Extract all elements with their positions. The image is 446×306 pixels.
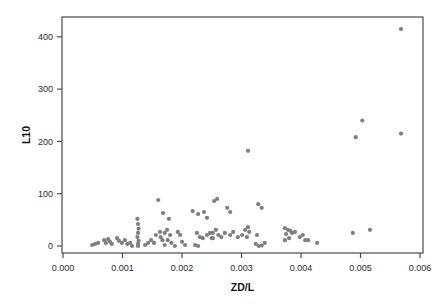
- y-tick-label: 400: [38, 32, 53, 42]
- data-point: [260, 206, 264, 210]
- data-point: [287, 236, 291, 240]
- x-tick-label: 0.005: [349, 263, 372, 273]
- x-tick-label: 0.006: [409, 263, 432, 273]
- data-point: [354, 135, 358, 139]
- y-tick-label: 200: [38, 137, 53, 147]
- data-point: [195, 231, 199, 235]
- data-point: [306, 238, 310, 242]
- plot-frame: [62, 17, 423, 253]
- data-point: [165, 228, 169, 232]
- data-point: [225, 206, 229, 210]
- data-point: [293, 230, 297, 234]
- data-point: [183, 243, 187, 247]
- data-point: [205, 216, 209, 220]
- data-point: [161, 211, 165, 215]
- data-point: [173, 244, 177, 248]
- data-point: [130, 244, 134, 248]
- x-tick-label: 0.004: [290, 263, 313, 273]
- data-point: [214, 228, 218, 232]
- data-point: [283, 238, 287, 242]
- y-tick-label: 100: [38, 189, 53, 199]
- data-point: [360, 118, 364, 122]
- x-tick-label: 0.001: [111, 263, 134, 273]
- scatter-chart-figure: 01002003004000.0000.0010.0020.0030.0040.…: [0, 0, 446, 306]
- data-point: [255, 233, 259, 237]
- data-point: [137, 227, 141, 231]
- data-point: [202, 210, 206, 214]
- data-point: [166, 238, 170, 242]
- data-point: [399, 27, 403, 31]
- data-point: [284, 232, 288, 236]
- data-point: [196, 212, 200, 216]
- data-point: [178, 233, 182, 237]
- data-point: [136, 231, 140, 235]
- data-point: [201, 236, 205, 240]
- data-point: [123, 238, 127, 242]
- data-point: [219, 235, 223, 239]
- x-tick-label: 0.002: [171, 263, 194, 273]
- data-point: [104, 241, 108, 245]
- x-axis-title: ZD/L: [62, 281, 423, 293]
- data-point: [228, 233, 232, 237]
- data-point: [399, 132, 403, 136]
- data-point: [215, 197, 219, 201]
- data-point: [315, 241, 319, 245]
- data-point: [135, 235, 139, 239]
- data-point: [191, 209, 195, 213]
- data-point: [256, 202, 260, 206]
- data-point: [368, 228, 372, 232]
- data-point: [211, 236, 215, 240]
- data-point: [154, 233, 158, 237]
- y-axis-title: L10: [20, 95, 32, 175]
- data-point: [160, 238, 164, 242]
- data-point: [168, 233, 172, 237]
- data-point: [263, 241, 267, 245]
- data-point: [236, 235, 240, 239]
- y-tick-label: 0: [48, 241, 53, 251]
- data-point: [240, 233, 244, 237]
- data-point: [169, 241, 173, 245]
- data-point: [163, 243, 167, 247]
- data-point: [196, 244, 200, 248]
- data-point: [158, 230, 162, 234]
- data-point: [110, 242, 114, 246]
- x-tick-label: 0.000: [52, 263, 75, 273]
- data-point: [246, 225, 250, 229]
- scatter-plot: 01002003004000.0000.0010.0020.0030.0040.…: [0, 0, 446, 306]
- data-point: [167, 217, 171, 221]
- data-point: [156, 198, 160, 202]
- x-tick-label: 0.003: [230, 263, 253, 273]
- data-point: [136, 244, 140, 248]
- data-point: [246, 149, 250, 153]
- data-point: [211, 231, 215, 235]
- data-point: [152, 241, 156, 245]
- data-point: [228, 210, 232, 214]
- data-point: [247, 230, 251, 234]
- data-point: [245, 235, 249, 239]
- data-point: [180, 240, 184, 244]
- data-point: [223, 231, 227, 235]
- y-tick-label: 300: [38, 84, 53, 94]
- data-point: [301, 233, 305, 237]
- data-point: [135, 217, 139, 221]
- data-point: [136, 222, 140, 226]
- data-point: [351, 231, 355, 235]
- data-point: [231, 230, 235, 234]
- data-point: [96, 241, 100, 245]
